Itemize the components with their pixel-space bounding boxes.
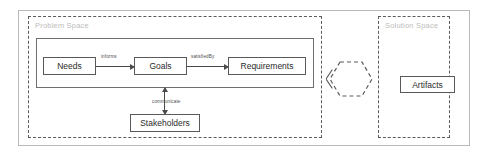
problem-space-label: Problem Space xyxy=(35,21,89,30)
edge-label-informs: informs xyxy=(101,54,117,59)
edge-label-communicate: communicate xyxy=(152,99,180,104)
node-requirements[interactable]: Requirements xyxy=(228,57,306,75)
node-needs[interactable]: Needs xyxy=(43,57,96,75)
diagram-canvas: Problem Space Needs Goals Requirements S… xyxy=(0,0,483,158)
node-stakeholders[interactable]: Stakeholders xyxy=(130,114,200,132)
solution-space-label: Solution Space xyxy=(385,21,438,30)
node-artifacts[interactable]: Artifacts xyxy=(400,76,455,93)
arrow-needs-to-goals xyxy=(96,66,134,67)
edge-label-satisfiedby: satisfiedBy xyxy=(191,54,214,59)
arrow-goals-to-requirements xyxy=(187,66,228,67)
node-goals[interactable]: Goals xyxy=(134,57,187,75)
bridge-hexagon-icon xyxy=(326,58,376,100)
